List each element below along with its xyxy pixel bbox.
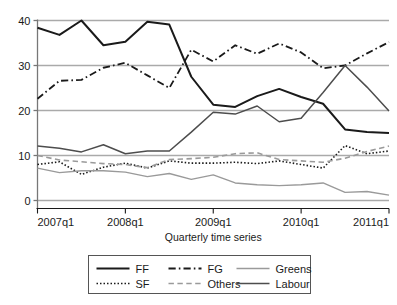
legend-label-others: Others [208,278,242,290]
y-tick-label: 0 [24,195,30,207]
x-tick-label: 2007q1 [38,216,75,228]
y-tick-label: 10 [18,150,30,162]
x-axis-title: Quarterly time series [165,231,262,243]
legend-label-sf: SF [136,278,150,290]
y-tick-label: 30 [18,60,30,72]
x-tick-label: 2011q1 [353,216,389,228]
x-tick-label: 2008q1 [107,216,144,228]
legend-label-ff: FF [136,263,150,275]
x-tick-label: 2009q1 [195,216,232,228]
legend-label-greens: Greens [276,263,313,275]
legend-label-fg: FG [208,263,223,275]
y-tick-label: 20 [18,105,30,117]
legend: FFFGSFOthersGreensLabour [89,256,313,294]
x-tick-label: 2010q1 [283,216,320,228]
chart-canvas: 010203040 2007q12008q12009q12010q12011q1… [0,0,397,305]
legend-label-labour: Labour [276,278,311,290]
y-tick-label: 40 [18,15,30,27]
line-chart: 010203040 2007q12008q12009q12010q12011q1… [0,0,397,305]
